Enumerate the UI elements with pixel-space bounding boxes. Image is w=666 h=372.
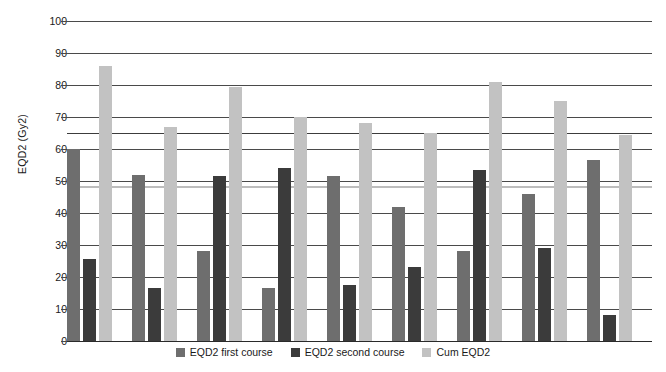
bar-2-series2[interactable] xyxy=(148,288,161,341)
bar-group-6 xyxy=(392,21,457,341)
bar-chart: EQD2 (Gy2) 1009080706050403020100 EQD2 f… xyxy=(0,0,666,372)
plot-area xyxy=(67,21,652,341)
bar-2-series3[interactable] xyxy=(164,127,177,341)
bar-group-4 xyxy=(262,21,327,341)
legend-item-2[interactable]: EQD2 second course xyxy=(291,346,405,358)
bar-9-series3[interactable] xyxy=(619,135,632,341)
bar-2-series1[interactable] xyxy=(132,175,145,341)
bar-9-series2[interactable] xyxy=(603,315,616,341)
bar-3-series3[interactable] xyxy=(229,87,242,341)
bar-8-series2[interactable] xyxy=(538,248,551,341)
bar-4-series1[interactable] xyxy=(262,288,275,341)
bar-7-series1[interactable] xyxy=(457,251,470,341)
chart-legend: EQD2 first courseEQD2 second courseCum E… xyxy=(0,346,666,358)
bar-8-series3[interactable] xyxy=(554,101,567,341)
bar-group-8 xyxy=(522,21,587,341)
bar-group-5 xyxy=(327,21,392,341)
legend-label-2: EQD2 second course xyxy=(305,346,405,358)
gridline-0 xyxy=(67,341,652,342)
bar-9-series1[interactable] xyxy=(587,160,600,341)
y-axis-ticks: 1009080706050403020100 xyxy=(22,21,67,341)
legend-swatch-icon-1 xyxy=(176,348,185,357)
bar-1-series1[interactable] xyxy=(67,149,80,341)
bar-7-series2[interactable] xyxy=(473,170,486,341)
bar-4-series3[interactable] xyxy=(294,117,307,341)
bar-group-9 xyxy=(587,21,652,341)
bar-7-series3[interactable] xyxy=(489,82,502,341)
bar-group-7 xyxy=(457,21,522,341)
legend-label-3: Cum EQD2 xyxy=(436,346,490,358)
bar-1-series3[interactable] xyxy=(99,66,112,341)
legend-swatch-icon-2 xyxy=(291,348,300,357)
bar-6-series2[interactable] xyxy=(408,267,421,341)
legend-item-3[interactable]: Cum EQD2 xyxy=(422,346,490,358)
bar-6-series1[interactable] xyxy=(392,207,405,341)
bar-1-series2[interactable] xyxy=(83,259,96,341)
bar-6-series3[interactable] xyxy=(424,133,437,341)
bar-3-series1[interactable] xyxy=(197,251,210,341)
bar-8-series1[interactable] xyxy=(522,194,535,341)
bar-5-series2[interactable] xyxy=(343,285,356,341)
bar-5-series1[interactable] xyxy=(327,176,340,341)
bar-4-series2[interactable] xyxy=(278,168,291,341)
bar-3-series2[interactable] xyxy=(213,176,226,341)
legend-item-1[interactable]: EQD2 first course xyxy=(176,346,273,358)
legend-label-1: EQD2 first course xyxy=(190,346,273,358)
bar-group-3 xyxy=(197,21,262,341)
bar-group-1 xyxy=(67,21,132,341)
bar-groups xyxy=(67,21,652,341)
legend-swatch-icon-3 xyxy=(422,348,431,357)
bar-group-2 xyxy=(132,21,197,341)
bar-5-series3[interactable] xyxy=(359,123,372,341)
